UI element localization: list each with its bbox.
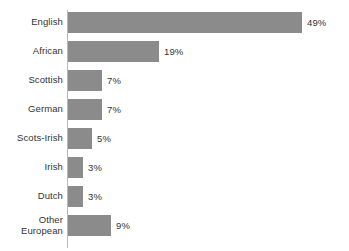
plot-area: English 49% African 19% Scottish 7% Germ… [0,0,349,251]
bar [68,186,83,207]
bar-value-label: 7% [107,104,121,115]
bar-row: Scots-Irish 5% [0,128,349,149]
bar [68,41,159,62]
category-label: Dutch [0,191,63,202]
bar-value-label: 49% [307,17,326,28]
category-label: Irish [0,162,63,173]
category-label: Scottish [0,75,63,86]
category-label: Scots-Irish [0,133,63,144]
bar-value-label: 7% [107,75,121,86]
bar [68,128,92,149]
bar [68,70,102,91]
bar-chart: English 49% African 19% Scottish 7% Germ… [0,0,349,251]
bar [68,99,102,120]
bar-value-label: 19% [164,46,183,57]
bar-row: African 19% [0,41,349,62]
bar [68,157,83,178]
bar-row: Other European 9% [0,215,349,236]
category-label: African [0,46,63,57]
category-label: German [0,104,63,115]
category-label: English [0,17,63,28]
bar-row: German 7% [0,99,349,120]
bar-value-label: 3% [88,162,102,173]
bar-row: Scottish 7% [0,70,349,91]
category-label: Other European [0,215,63,236]
bar-row: English 49% [0,12,349,33]
bar-value-label: 9% [116,220,130,231]
bar-row: Dutch 3% [0,186,349,207]
bar-value-label: 3% [88,191,102,202]
bar-value-label: 5% [97,133,111,144]
bar-row: Irish 3% [0,157,349,178]
bar [68,12,302,33]
bar [68,215,111,236]
